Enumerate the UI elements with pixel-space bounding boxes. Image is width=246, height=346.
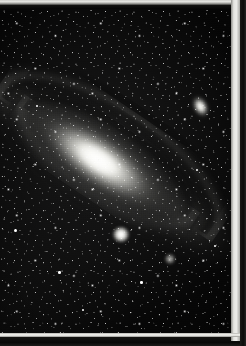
frame-shadow-top [0,5,246,9]
foreground-star [36,105,38,107]
frame-border-bottom [0,333,246,337]
foreground-star [214,245,216,247]
astronomy-photo [0,9,232,333]
frame-edge-right [240,0,246,346]
satellite-galaxy-m32 [113,227,129,242]
spiral-arm-knot [165,254,175,264]
frame-border-right [231,0,240,341]
foreground-star [140,281,143,284]
galaxy-m31 [0,9,232,333]
foreground-star [14,229,17,232]
foreground-star [196,169,198,171]
frame-backing-bottom [0,337,246,346]
foreground-star [82,309,84,311]
photographic-plate: Andromeda Galaxy M31 Andromeda Galaxy (M… [0,0,246,346]
foreground-star [58,271,61,274]
